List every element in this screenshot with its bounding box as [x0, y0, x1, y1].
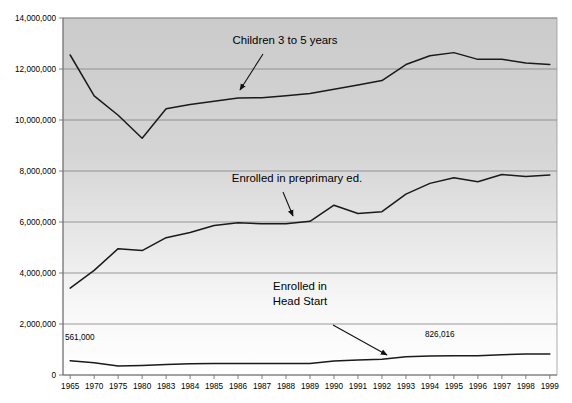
y-axis-tick-label: 2,000,000 — [20, 320, 57, 329]
chart-container: 02,000,0004,000,0006,000,0008,000,00010,… — [0, 0, 572, 403]
x-axis-tick-label: 1995 — [445, 382, 464, 391]
x-axis-tick-label: 1997 — [493, 382, 512, 391]
x-axis-tick-marks — [70, 375, 550, 379]
x-axis-tick-labels: 1965197019751980198319841985198619871988… — [61, 382, 559, 391]
x-axis-tick-label: 1989 — [301, 382, 320, 391]
label-children: Children 3 to 5 years — [232, 34, 337, 46]
x-axis-tick-label: 1992 — [373, 382, 392, 391]
x-axis-tick-label: 1975 — [109, 382, 128, 391]
label-headstart-line1: Enrolled in — [273, 280, 327, 292]
x-axis-tick-label: 1999 — [541, 382, 560, 391]
x-axis-tick-label: 1998 — [517, 382, 536, 391]
plot-area — [63, 18, 557, 375]
x-axis-tick-label: 1984 — [181, 382, 200, 391]
x-axis-tick-label: 1988 — [277, 382, 296, 391]
y-axis-tick-label: 0 — [51, 371, 56, 380]
x-axis-tick-label: 1987 — [253, 382, 272, 391]
y-axis-tick-label: 10,000,000 — [15, 116, 56, 125]
line-chart: 02,000,0004,000,0006,000,0008,000,00010,… — [0, 0, 572, 403]
x-axis-tick-label: 1970 — [85, 382, 104, 391]
x-axis-tick-label: 1980 — [133, 382, 152, 391]
x-axis-tick-label: 1990 — [325, 382, 344, 391]
label-preprimary: Enrolled in preprimary ed. — [232, 172, 362, 184]
y-axis-tick-label: 12,000,000 — [15, 65, 56, 74]
x-axis-tick-label: 1994 — [421, 382, 440, 391]
x-axis-tick-label: 1993 — [397, 382, 416, 391]
x-axis-tick-label: 1991 — [349, 382, 368, 391]
headstart-end-value: 826,016 — [425, 330, 455, 339]
x-axis-tick-label: 1965 — [61, 382, 80, 391]
x-axis-tick-label: 1996 — [469, 382, 488, 391]
x-axis-tick-label: 1986 — [229, 382, 248, 391]
y-axis-tick-label: 6,000,000 — [20, 218, 57, 227]
y-axis-tick-label: 4,000,000 — [20, 269, 57, 278]
y-axis-tick-label: 14,000,000 — [15, 14, 56, 23]
headstart-start-value: 561,000 — [65, 333, 95, 342]
y-axis-tick-label: 8,000,000 — [20, 167, 57, 176]
x-axis-tick-label: 1985 — [205, 382, 224, 391]
label-headstart-line2: Head Start — [273, 295, 328, 307]
x-axis-tick-label: 1983 — [157, 382, 176, 391]
